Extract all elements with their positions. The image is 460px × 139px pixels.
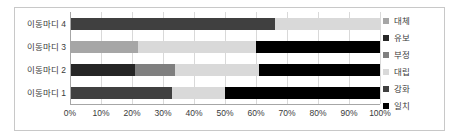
y-axis-label: 이동마디 1 bbox=[2, 87, 66, 99]
x-axis-tick-label: 70% bbox=[278, 106, 295, 120]
legend-label: 부정 bbox=[394, 50, 410, 60]
x-axis-tick-label: 40% bbox=[185, 106, 202, 120]
x-axis-line bbox=[70, 104, 380, 105]
x-axis-tick-label: 80% bbox=[309, 106, 326, 120]
bar-segment-대립[interactable] bbox=[172, 87, 225, 99]
legend-item[interactable]: 강화 bbox=[383, 80, 441, 97]
x-axis-tick-label: 90% bbox=[340, 106, 357, 120]
legend-label: 대체 bbox=[394, 16, 410, 26]
plot-area bbox=[70, 12, 380, 104]
legend-label: 일치 bbox=[394, 101, 410, 111]
stacked-bar[interactable] bbox=[70, 87, 380, 99]
y-axis-label: 이동마디 2 bbox=[2, 64, 66, 76]
legend-item[interactable]: 대립 bbox=[383, 63, 441, 80]
bar-segment-강화[interactable] bbox=[70, 87, 172, 99]
x-axis-tick-label: 30% bbox=[154, 106, 171, 120]
x-axis-tick-label: 20% bbox=[123, 106, 140, 120]
y-axis-labels: 이동마디 4이동마디 3이동마디 2이동마디 1 bbox=[0, 12, 66, 104]
legend-label: 강화 bbox=[394, 84, 410, 94]
legend-item[interactable]: 대체 bbox=[383, 12, 441, 29]
legend-item[interactable]: 일치 bbox=[383, 97, 441, 114]
legend-label: 대립 bbox=[394, 67, 410, 77]
x-axis-tick-label: 0% bbox=[64, 106, 76, 120]
bar-row bbox=[70, 12, 380, 104]
legend-swatch-icon bbox=[383, 69, 389, 75]
legend-item[interactable]: 유보 bbox=[383, 29, 441, 46]
x-axis-tick-label: 60% bbox=[247, 106, 264, 120]
y-axis-line bbox=[70, 12, 71, 104]
y-axis-label: 이동마디 3 bbox=[2, 41, 66, 53]
legend-swatch-icon bbox=[383, 18, 389, 24]
legend-swatch-icon bbox=[383, 35, 389, 41]
chart-legend: 대체유보부정대립강화일치 bbox=[383, 12, 441, 122]
legend-label: 유보 bbox=[394, 33, 410, 43]
x-axis-tick-label: 10% bbox=[92, 106, 109, 120]
x-axis-tick-label: 50% bbox=[216, 106, 233, 120]
legend-swatch-icon bbox=[383, 52, 389, 58]
legend-item[interactable]: 부정 bbox=[383, 46, 441, 63]
legend-swatch-icon bbox=[383, 103, 389, 109]
bar-segment-일치[interactable] bbox=[225, 87, 380, 99]
gridline-100 bbox=[380, 12, 381, 104]
legend-swatch-icon bbox=[383, 86, 389, 92]
x-axis-labels: 0%10%20%30%40%50%60%70%80%90%100% bbox=[70, 106, 380, 122]
y-axis-label: 이동마디 4 bbox=[2, 18, 66, 30]
chart-container: 이동마디 4이동마디 3이동마디 2이동마디 1 0%10%20%30%40%5… bbox=[0, 0, 460, 139]
